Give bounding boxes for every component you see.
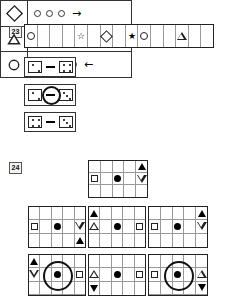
- q24-grid-cell[interactable]: [135, 268, 145, 281]
- q24-grid-cell[interactable]: [63, 282, 74, 295]
- q24-grid-cell[interactable]: [52, 268, 63, 281]
- q24-grid-cell[interactable]: [89, 268, 100, 281]
- q24-grid-cell[interactable]: [124, 185, 136, 197]
- q24-grid-cell[interactable]: [40, 207, 51, 220]
- q24-grid-cell[interactable]: [135, 255, 145, 268]
- q24-grid-cell[interactable]: [112, 282, 123, 295]
- q24-grid-cell[interactable]: [29, 207, 40, 220]
- q24-grid-cell[interactable]: [196, 282, 207, 295]
- q24-grid-cell[interactable]: [184, 234, 196, 247]
- q24-grid-cell[interactable]: [173, 220, 185, 233]
- q24-grid-cell[interactable]: [149, 255, 161, 268]
- q24-grid-cell[interactable]: [63, 220, 74, 233]
- q24-grid-cell[interactable]: [89, 161, 101, 173]
- q24-grid-cell[interactable]: [101, 161, 113, 173]
- q24-grid-cell[interactable]: [149, 234, 161, 247]
- q24-grid-cell[interactable]: [123, 234, 134, 247]
- q24-grid-cell[interactable]: [173, 207, 185, 220]
- q24-grid-cell[interactable]: [112, 234, 123, 247]
- q24-grid-cell[interactable]: [149, 220, 161, 233]
- q24-grid-cell[interactable]: [40, 282, 51, 295]
- q24-grid-cell[interactable]: [89, 255, 100, 268]
- q24-grid-cell[interactable]: [173, 282, 185, 295]
- q24-grid-cell[interactable]: [29, 234, 40, 247]
- q24-grid-cell[interactable]: [196, 234, 207, 247]
- q23-strip-cell[interactable]: [151, 25, 164, 47]
- q24-grid-cell[interactable]: [149, 282, 161, 295]
- q24-grid-cell[interactable]: [100, 268, 111, 281]
- q24-grid-cell[interactable]: [136, 173, 147, 185]
- q24-grid-cell[interactable]: [161, 282, 173, 295]
- q24-grid-cell[interactable]: [123, 220, 134, 233]
- q23-strip-cell[interactable]: [101, 25, 114, 47]
- q24-grid-cell[interactable]: [112, 220, 123, 233]
- q24-grid-cell[interactable]: [184, 282, 196, 295]
- q24-grid-cell[interactable]: [40, 234, 51, 247]
- q23-strip-cell[interactable]: [113, 25, 126, 47]
- q24-grid-cell[interactable]: [196, 220, 207, 233]
- q24-grid-cell[interactable]: [40, 268, 51, 281]
- q23-sequence-strip[interactable]: ☆★: [24, 24, 214, 48]
- q23-strip-cell[interactable]: ★: [126, 25, 139, 47]
- q24-grid-cell[interactable]: [89, 185, 101, 197]
- q24-grid-cell[interactable]: [173, 255, 185, 268]
- q24-grid-cell[interactable]: [184, 220, 196, 233]
- q24-grid-cell[interactable]: [123, 255, 134, 268]
- q24-grid-cell[interactable]: [173, 234, 185, 247]
- q24-grid-cell[interactable]: [135, 282, 145, 295]
- q24-grid-cell[interactable]: [89, 173, 101, 185]
- q24-grid-cell[interactable]: [161, 207, 173, 220]
- q24-option-5[interactable]: [88, 254, 146, 296]
- q24-grid-cell[interactable]: [52, 255, 63, 268]
- q24-grid-cell[interactable]: [63, 207, 74, 220]
- q24-option-6[interactable]: [148, 254, 208, 296]
- q24-option-1[interactable]: [28, 206, 86, 248]
- q23-clue-3[interactable]: [24, 112, 76, 132]
- q24-grid-cell[interactable]: [184, 255, 196, 268]
- q24-grid-cell[interactable]: [135, 234, 145, 247]
- q24-grid-cell[interactable]: [40, 255, 51, 268]
- q24-grid-cell[interactable]: [52, 282, 63, 295]
- q23-strip-cell[interactable]: [38, 25, 51, 47]
- q24-grid-cell[interactable]: [29, 255, 40, 268]
- q24-grid-cell[interactable]: [196, 255, 207, 268]
- q24-grid-cell[interactable]: [89, 220, 100, 233]
- q24-grid-cell[interactable]: [136, 185, 147, 197]
- q24-prompt-grid[interactable]: [88, 160, 148, 198]
- q24-grid-cell[interactable]: [89, 282, 100, 295]
- q24-grid-cell[interactable]: [100, 220, 111, 233]
- q24-grid-cell[interactable]: [113, 161, 125, 173]
- q23-answer-row[interactable]: →: [1, 1, 131, 27]
- q24-grid-cell[interactable]: [113, 173, 125, 185]
- q24-grid-cell[interactable]: [100, 282, 111, 295]
- q24-grid-cell[interactable]: [149, 268, 161, 281]
- q24-grid-cell[interactable]: [75, 282, 85, 295]
- q23-strip-cell[interactable]: [138, 25, 151, 47]
- q24-grid-cell[interactable]: [196, 207, 207, 220]
- q24-grid-cell[interactable]: [161, 234, 173, 247]
- q24-grid-cell[interactable]: [29, 220, 40, 233]
- q24-grid-cell[interactable]: [112, 268, 123, 281]
- q24-grid-cell[interactable]: [100, 207, 111, 220]
- q24-grid-cell[interactable]: [135, 220, 145, 233]
- q24-grid-cell[interactable]: [124, 173, 136, 185]
- q24-grid-cell[interactable]: [123, 207, 134, 220]
- q24-grid-cell[interactable]: [75, 207, 85, 220]
- q24-grid-cell[interactable]: [149, 207, 161, 220]
- q24-option-2[interactable]: [88, 206, 146, 248]
- q24-grid-cell[interactable]: [101, 185, 113, 197]
- q23-strip-cell[interactable]: [50, 25, 63, 47]
- q24-grid-cell[interactable]: [75, 268, 85, 281]
- q24-grid-cell[interactable]: [123, 268, 134, 281]
- q24-grid-cell[interactable]: [75, 220, 85, 233]
- q24-grid-cell[interactable]: [135, 207, 145, 220]
- q24-grid-cell[interactable]: [40, 220, 51, 233]
- q23-strip-cell[interactable]: [63, 25, 76, 47]
- q24-grid-cell[interactable]: [173, 268, 185, 281]
- q23-strip-cell[interactable]: [164, 25, 177, 47]
- q23-strip-cell[interactable]: [25, 25, 38, 47]
- q24-grid-cell[interactable]: [196, 268, 207, 281]
- q24-grid-cell[interactable]: [113, 185, 125, 197]
- q24-grid-cell[interactable]: [100, 234, 111, 247]
- q24-grid-cell[interactable]: [52, 220, 63, 233]
